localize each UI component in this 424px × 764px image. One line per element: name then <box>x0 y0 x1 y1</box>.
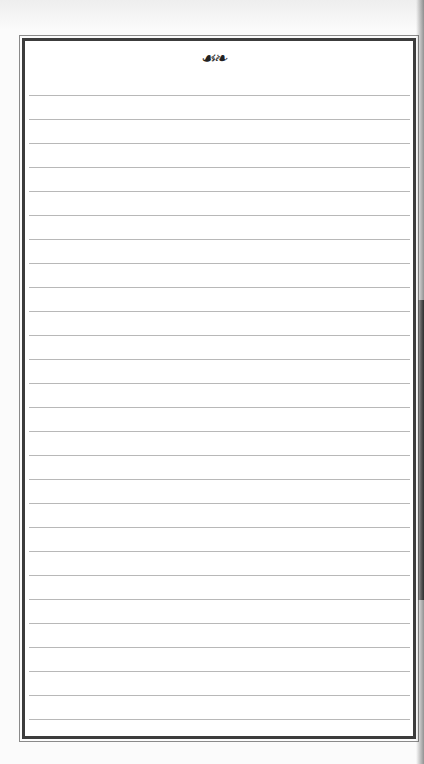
ruled-line <box>29 335 410 336</box>
ruled-line <box>29 263 410 264</box>
ruled-line <box>29 647 410 648</box>
ruled-line <box>29 191 410 192</box>
ruled-line <box>29 623 410 624</box>
ruled-line <box>29 167 410 168</box>
ruled-line <box>29 239 410 240</box>
ruled-line <box>29 719 410 720</box>
ruled-line <box>29 119 410 120</box>
ruled-line <box>29 143 410 144</box>
ruled-line <box>29 503 410 504</box>
ruled-line <box>29 215 410 216</box>
ruled-line <box>29 551 410 552</box>
ruled-line <box>29 311 410 312</box>
ruled-line <box>29 455 410 456</box>
ruled-line <box>29 95 410 96</box>
ruled-line <box>29 479 410 480</box>
ruled-line <box>29 695 410 696</box>
ruled-line <box>29 527 410 528</box>
ruled-line <box>29 359 410 360</box>
fleuron-ornament-icon: ☙❧ <box>0 48 424 68</box>
ruled-line <box>29 287 410 288</box>
ruled-line <box>29 599 410 600</box>
ruled-line <box>29 575 410 576</box>
ruled-line <box>29 671 410 672</box>
binding-shadow-dark <box>418 300 424 600</box>
page-edge-shade <box>0 0 424 30</box>
ruled-line <box>29 407 410 408</box>
ruled-line <box>29 383 410 384</box>
ruled-line <box>29 431 410 432</box>
